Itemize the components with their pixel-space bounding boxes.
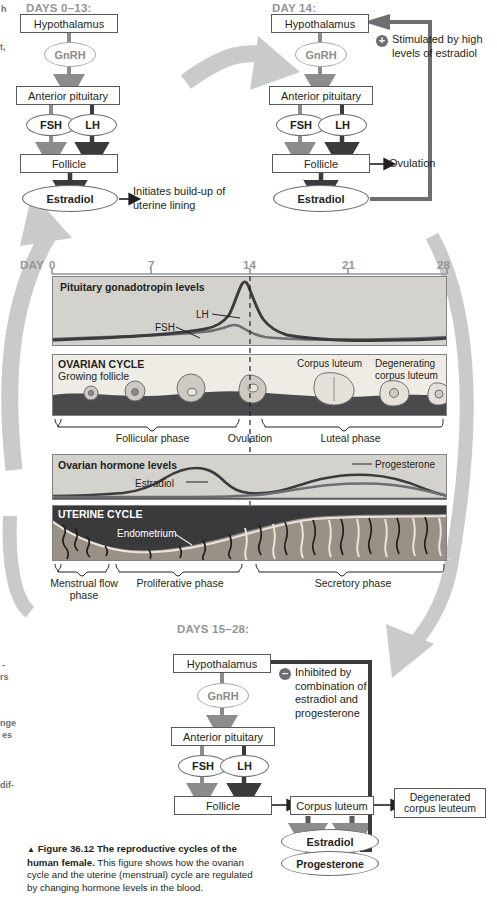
caption-number: Figure 36.12 <box>38 843 95 854</box>
bt-follicle-node: Follicle <box>174 796 272 815</box>
bt-progesterone-node: Progesterone <box>281 851 379 876</box>
figure-caption: ▲ Figure 36.12 The reproductive cycles o… <box>27 843 259 894</box>
negative-feedback-badge: – <box>279 668 291 680</box>
bt-anterior-pituitary-node: Anterior pituitary <box>171 727 275 746</box>
bt-feedback-note: Inhibited by combination of estradiol an… <box>295 666 389 720</box>
bt-corpus-luteum-node: Corpus luteum <box>290 796 374 815</box>
bt-lh-node: LH <box>220 755 269 777</box>
caption-triangle-icon: ▲ <box>27 845 35 854</box>
bt-hypothalamus-node: Hypothalamus <box>173 654 271 673</box>
bt-degenerated-corpus-luteum-node: Degenerated corpus leuteum <box>394 788 486 818</box>
bt-gnrh-node: GnRH <box>197 683 249 708</box>
